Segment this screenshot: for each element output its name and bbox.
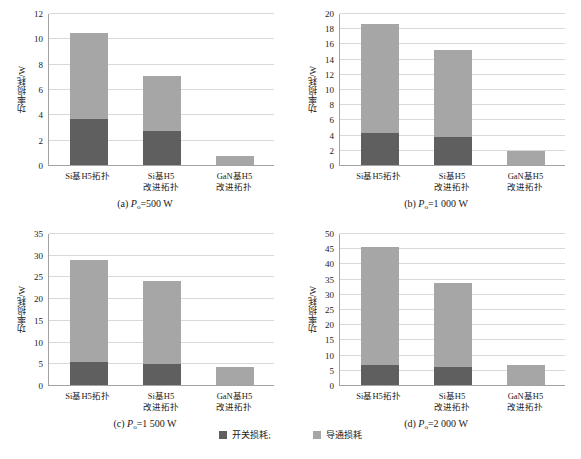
- y-tick-label: 30: [34, 251, 43, 260]
- y-tick-label: 2: [330, 146, 335, 155]
- gridline: [340, 13, 565, 14]
- y-tick-label: 8: [330, 101, 335, 110]
- y-tick-label: 2: [39, 136, 44, 145]
- bar-stack: [361, 24, 399, 165]
- bar-stack: [434, 283, 472, 385]
- bar-segment-conduction-loss: [361, 24, 399, 133]
- bar-segment-conduction-loss: [434, 50, 472, 137]
- y-tick-label: 6: [39, 86, 44, 95]
- plot-area: [339, 14, 565, 166]
- y-tick-label: 35: [325, 275, 334, 284]
- y-axis-ticks: 05101520253035: [26, 234, 46, 386]
- panel-caption-index: (a): [117, 198, 131, 209]
- legend-label: 开关损耗;: [232, 428, 271, 441]
- x-category-label-line: GaN基H5: [189, 171, 279, 182]
- y-tick-label: 10: [34, 338, 43, 347]
- panel-caption-symbol: P: [131, 198, 137, 209]
- chart-panel-c: 功率损耗/W05101520253035Si基H5拓扑Si基H5改进拓扑GaN基…: [0, 220, 290, 440]
- bar-stack: [361, 247, 399, 385]
- bar-segment-conduction-loss: [361, 247, 399, 366]
- bar-segment-conduction-loss: [143, 76, 181, 130]
- bar-segment-conduction-loss: [216, 156, 254, 165]
- x-category-label-line: GaN基H5: [480, 391, 570, 402]
- y-tick-label: 8: [39, 60, 44, 69]
- panel-caption-subscript: o: [137, 203, 141, 211]
- bar-segment-conduction-loss: [70, 260, 108, 362]
- x-category-label-line: 改进拓扑: [189, 182, 279, 193]
- x-category-label: GaN基H5改进拓扑: [189, 171, 279, 193]
- gridline: [49, 255, 274, 256]
- bar-segment-conduction-loss: [143, 281, 181, 364]
- bar-stack: [216, 156, 254, 165]
- y-tick-label: 15: [34, 316, 43, 325]
- bar-segment-conduction-loss: [507, 151, 545, 165]
- x-category-label-line: 改进拓扑: [189, 402, 279, 413]
- chart-panel-a: 功率损耗/W024681012Si基H5拓扑Si基H5改进拓扑GaN基H5改进拓…: [0, 0, 290, 220]
- chart-panel-b: 功率损耗/W02468101214161820Si基H5拓扑Si基H5改进拓扑G…: [291, 0, 581, 220]
- panel-caption: (b) Po=1 000 W: [291, 198, 581, 209]
- legend-swatch-icon: [313, 431, 321, 439]
- gridline: [49, 233, 274, 234]
- x-category-label-line: 改进拓扑: [480, 182, 570, 193]
- y-tick-label: 14: [325, 55, 334, 64]
- bar-segment-switching-loss: [434, 137, 472, 165]
- plot-area: [48, 14, 274, 166]
- legend-swatch-icon: [219, 431, 227, 439]
- y-axis-ticks: 05101520253035404550: [317, 234, 337, 386]
- y-axis-ticks: 024681012: [26, 14, 46, 166]
- x-category-label: GaN基H5改进拓扑: [189, 391, 279, 413]
- bar-stack: [216, 367, 254, 385]
- y-tick-label: 40: [325, 260, 334, 269]
- y-tick-label: 4: [330, 131, 335, 140]
- y-tick-label: 10: [34, 35, 43, 44]
- gridline: [340, 233, 565, 234]
- legend-item-conduction-loss: 导通损耗: [313, 428, 362, 441]
- bar-stack: [434, 50, 472, 166]
- y-tick-label: 35: [34, 230, 43, 239]
- x-category-label-line: GaN基H5: [189, 391, 279, 402]
- y-axis-ticks: 02468101214161820: [317, 14, 337, 166]
- bar-segment-switching-loss: [70, 119, 108, 165]
- legend-label: 导通损耗: [326, 428, 362, 441]
- bar-stack: [143, 281, 181, 385]
- bar-stack: [143, 76, 181, 165]
- bar-stack: [507, 365, 545, 385]
- chart-legend: 开关损耗;导通损耗: [0, 428, 581, 441]
- plot-area: [339, 234, 565, 386]
- y-tick-label: 45: [325, 245, 334, 254]
- y-tick-label: 12: [34, 10, 43, 19]
- y-tick-label: 0: [330, 382, 335, 391]
- bar-segment-switching-loss: [361, 133, 399, 165]
- gridline: [49, 13, 274, 14]
- panel-caption: (a) Po=500 W: [0, 198, 290, 209]
- bar-segment-switching-loss: [70, 362, 108, 385]
- bar-segment-switching-loss: [361, 365, 399, 385]
- y-tick-label: 30: [325, 290, 334, 299]
- y-tick-label: 10: [325, 86, 334, 95]
- y-tick-label: 20: [325, 10, 334, 19]
- y-tick-label: 15: [325, 336, 334, 345]
- bar-segment-switching-loss: [143, 364, 181, 385]
- bar-stack: [70, 33, 108, 165]
- figure-power-loss-comparison: 功率损耗/W024681012Si基H5拓扑Si基H5改进拓扑GaN基H5改进拓…: [0, 0, 581, 459]
- bar-segment-conduction-loss: [434, 283, 472, 367]
- y-tick-label: 0: [39, 162, 44, 171]
- x-category-label: GaN基H5改进拓扑: [480, 391, 570, 413]
- y-tick-label: 0: [39, 382, 44, 391]
- chart-panel-d: 功率损耗/W05101520253035404550Si基H5拓扑Si基H5改进…: [291, 220, 581, 440]
- legend-item-switching-loss: 开关损耗;: [219, 428, 271, 441]
- panel-caption-subscript: o: [424, 203, 428, 211]
- bar-segment-switching-loss: [434, 367, 472, 385]
- bar-segment-switching-loss: [143, 131, 181, 165]
- y-tick-label: 20: [34, 295, 43, 304]
- y-tick-label: 5: [330, 366, 335, 375]
- y-tick-label: 25: [34, 273, 43, 282]
- y-tick-label: 4: [39, 111, 44, 120]
- y-tick-label: 12: [325, 70, 334, 79]
- bar-stack: [507, 151, 545, 165]
- x-category-label-line: 改进拓扑: [480, 402, 570, 413]
- y-tick-label: 20: [325, 321, 334, 330]
- y-tick-label: 0: [330, 162, 335, 171]
- y-tick-label: 25: [325, 306, 334, 315]
- y-tick-label: 5: [39, 360, 44, 369]
